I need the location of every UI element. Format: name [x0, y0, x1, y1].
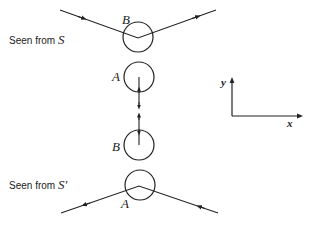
top-panel-trajectory: [60, 10, 216, 52]
outgoing-arrow-icon: [192, 17, 198, 19]
particle-b-bottom: [124, 115, 154, 160]
bottom-panel-trajectory: [61, 170, 218, 213]
outgoing-arrow-icon: [84, 203, 90, 205]
caption-top: Seen from S: [9, 32, 64, 48]
frame-label: S: [58, 32, 65, 47]
caption-bottom: Seen from S': [9, 177, 67, 193]
x-axis-label: x: [287, 117, 293, 129]
collision-diagram: Seen from S B A B Seen from S' A y x: [0, 0, 310, 225]
caption-prefix: Seen from: [9, 35, 55, 46]
particle-a-label-bottom: A: [121, 196, 129, 212]
coordinate-axes: [232, 80, 300, 116]
particle-a-circle-bottom: [125, 170, 155, 200]
incoming-arrow-icon: [78, 17, 84, 19]
incoming-arrow-icon: [199, 206, 205, 208]
particle-a-label-top: A: [112, 69, 120, 85]
y-axis-label: y: [221, 76, 226, 88]
caption-prefix: Seen from: [9, 180, 55, 191]
frame-label: S': [58, 177, 67, 192]
particle-a-top: [124, 62, 154, 107]
particle-b-label-top: B: [122, 12, 130, 28]
particle-b-label-bottom: B: [112, 139, 120, 155]
